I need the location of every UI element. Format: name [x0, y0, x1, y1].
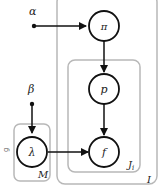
label-lambda: λ	[28, 146, 36, 159]
plate-label-J: Ji	[126, 159, 134, 172]
alpha-dot	[32, 24, 36, 28]
label-alpha: α	[29, 5, 37, 18]
beta-dot	[30, 102, 34, 106]
label-beta: β	[27, 83, 34, 96]
plate-diagram: α β π p f λ M Ji I g	[0, 0, 163, 186]
label-p: p	[100, 83, 107, 96]
plate-label-M: M	[37, 169, 49, 180]
side-mark: g	[2, 148, 10, 152]
label-pi: π	[100, 21, 108, 32]
